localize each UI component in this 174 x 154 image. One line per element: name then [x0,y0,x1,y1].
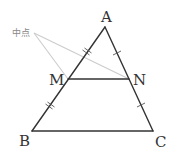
label-m: M [49,71,64,89]
midpoint-annotation: 中点 [12,27,30,38]
label-n: N [133,71,146,89]
label-c: C [155,133,166,151]
triangle-diagram: A M N B C 中点 [0,0,174,154]
label-a: A [100,8,112,26]
label-b: B [19,132,30,150]
